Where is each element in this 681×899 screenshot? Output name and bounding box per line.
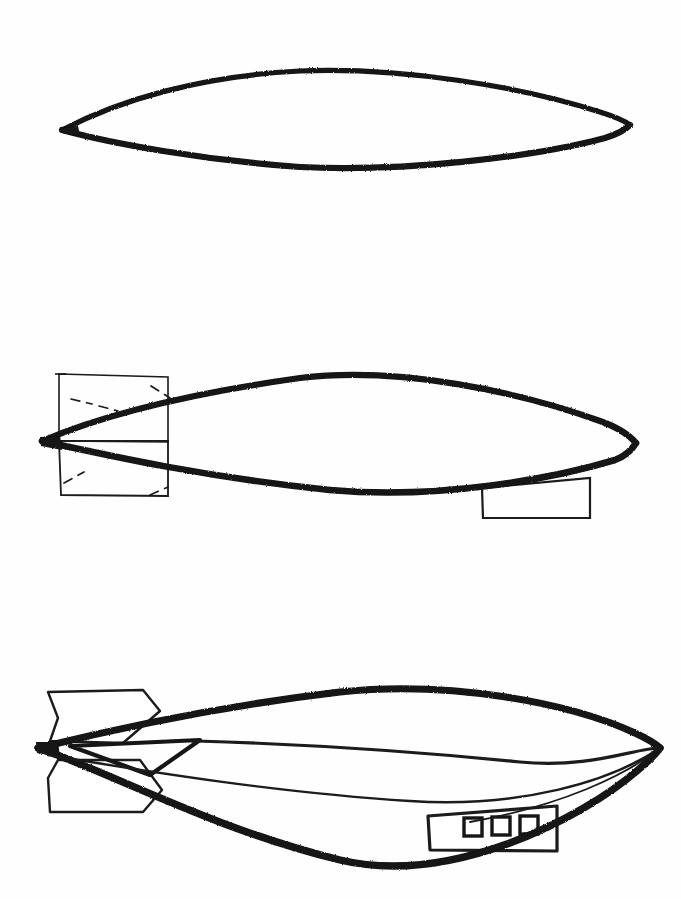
gondola-window-2	[492, 817, 510, 835]
lower-tail-fin-outline	[48, 760, 162, 812]
lower-tail-fin	[48, 760, 162, 812]
drawing-sheet: Lens-shaped airship envelope outline, no…	[0, 0, 681, 899]
airship-tutorial-illustration	[0, 0, 681, 899]
